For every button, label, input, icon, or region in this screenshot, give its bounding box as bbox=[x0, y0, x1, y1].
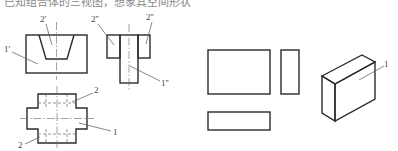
component-top-rectangle bbox=[208, 112, 270, 130]
drawing-canvas: 1' 2' 2'' 2'' 1'' 2 1 2 bbox=[0, 0, 398, 151]
front-view: 1' 2' bbox=[4, 14, 87, 80]
label-2-double-prime-left: 2'' bbox=[91, 14, 99, 24]
side-view-leader-right bbox=[146, 22, 152, 44]
label-2-upper: 2 bbox=[94, 85, 99, 95]
side-view-leader-stem bbox=[130, 66, 160, 81]
label-1-prime: 1' bbox=[4, 44, 11, 54]
label-1-iso: 1 bbox=[384, 59, 389, 69]
side-view: 2'' 2'' 1'' bbox=[91, 12, 169, 90]
label-2-lower: 2 bbox=[18, 140, 23, 150]
component-side-rectangle bbox=[281, 50, 299, 94]
top-view: 2 1 2 bbox=[18, 85, 118, 150]
component-views bbox=[208, 50, 299, 130]
front-view-leader-1 bbox=[12, 52, 38, 64]
label-2-double-prime-right: 2'' bbox=[146, 12, 154, 22]
label-1-double-prime: 1'' bbox=[161, 78, 169, 88]
iso-front-face bbox=[335, 62, 375, 121]
component-front-rectangle bbox=[208, 50, 270, 94]
top-view-leader-center bbox=[79, 123, 111, 131]
iso-top-face bbox=[322, 55, 375, 84]
side-view-right-block bbox=[138, 35, 150, 58]
iso-left-face bbox=[322, 76, 335, 121]
label-1-center: 1 bbox=[113, 127, 118, 137]
label-2-prime: 2' bbox=[40, 14, 47, 24]
isometric-box: 1 bbox=[322, 55, 389, 121]
